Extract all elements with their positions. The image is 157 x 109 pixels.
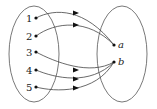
label-b: b <box>118 56 124 67</box>
label-4: 4 <box>26 65 32 76</box>
label-5: 5 <box>26 82 32 93</box>
label-2: 2 <box>26 31 32 42</box>
point-a <box>112 43 115 46</box>
edge-3-b <box>36 52 114 68</box>
label-3: 3 <box>26 47 32 58</box>
point-1 <box>34 16 37 19</box>
edge-1-a <box>36 12 114 45</box>
arrowhead-2 <box>73 23 79 28</box>
edge-2-a <box>36 25 114 45</box>
label-1: 1 <box>26 13 32 24</box>
arrowhead-5 <box>73 86 79 91</box>
arrowhead-3 <box>73 68 79 73</box>
point-3 <box>34 50 37 53</box>
point-b <box>112 60 115 63</box>
codomain-set-ellipse <box>97 6 147 102</box>
arrowhead-1 <box>73 11 79 16</box>
mapping-diagram: 1 2 3 4 5 a b <box>0 0 157 109</box>
point-5 <box>34 85 37 88</box>
point-2 <box>34 34 37 37</box>
point-4 <box>34 68 37 71</box>
domain-set-ellipse <box>9 6 59 102</box>
arrowhead-4 <box>73 77 79 82</box>
label-a: a <box>118 39 124 50</box>
